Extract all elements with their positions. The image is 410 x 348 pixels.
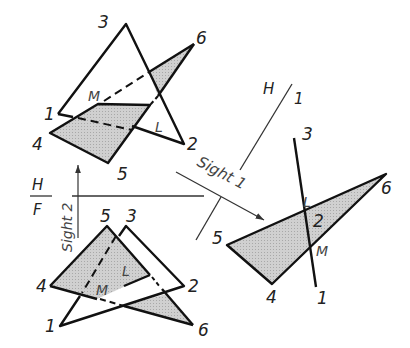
descriptive-geometry-diagram: 3 6 1 2 4 5 M L H F Sight 2 5 3 4 2 bbox=[0, 0, 410, 348]
top-label-M: M bbox=[88, 88, 100, 104]
front-label-M: M bbox=[96, 282, 108, 298]
front-label-4: 4 bbox=[36, 276, 47, 296]
aux-label-L: L bbox=[303, 194, 311, 210]
top-label-2: 2 bbox=[187, 134, 198, 154]
h1-fold: H 1 Sight 1 bbox=[176, 80, 304, 240]
front-label-2: 2 bbox=[188, 276, 199, 296]
fold-H-label: H bbox=[32, 176, 43, 194]
aux-label-2: 2 bbox=[313, 211, 324, 231]
front-label-3: 3 bbox=[126, 206, 137, 226]
top-label-3: 3 bbox=[98, 12, 109, 32]
top-shade-quad bbox=[50, 104, 150, 163]
front-label-1: 1 bbox=[45, 316, 56, 336]
top-label-6: 6 bbox=[196, 28, 207, 48]
aux-label-5: 5 bbox=[212, 228, 223, 248]
fold-F-label: F bbox=[33, 201, 42, 219]
top-label-1: 1 bbox=[44, 104, 55, 124]
sight2-label: Sight 2 bbox=[59, 203, 75, 252]
top-view: 3 6 1 2 4 5 M L bbox=[32, 12, 207, 184]
aux-label-6: 6 bbox=[381, 178, 392, 198]
aux-label-M: M bbox=[316, 243, 328, 259]
front-label-L: L bbox=[122, 263, 130, 279]
top-label-L: L bbox=[155, 119, 163, 135]
top-hidden-M bbox=[104, 72, 149, 101]
top-label-5: 5 bbox=[117, 164, 128, 184]
front-label-5: 5 bbox=[100, 206, 111, 226]
sight1-label: Sight 1 bbox=[194, 153, 249, 194]
aux-view: 3 6 5 4 1 2 L M bbox=[212, 124, 392, 308]
aux-label-4: 4 bbox=[266, 287, 277, 307]
fold-H1-1-label: 1 bbox=[294, 90, 304, 108]
top-label-4: 4 bbox=[32, 134, 43, 154]
fold-H1-H-label: H bbox=[263, 80, 274, 98]
aux-label-3: 3 bbox=[302, 124, 313, 144]
aux-label-1: 1 bbox=[317, 288, 328, 308]
front-label-6: 6 bbox=[198, 320, 209, 340]
